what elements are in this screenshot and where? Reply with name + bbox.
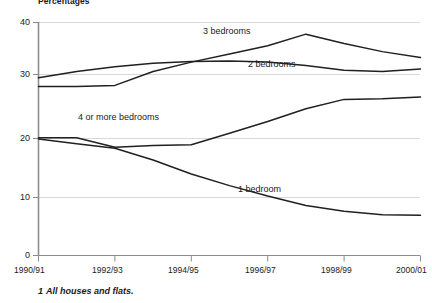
y-tick-label-20: 20: [2, 134, 30, 143]
y-tick-label-10: 10: [2, 193, 30, 202]
series-line-4-or-more-bedrooms: [39, 97, 421, 147]
series-lines: [39, 34, 421, 215]
x-tick-label-1998-99: 1998/99: [321, 266, 352, 275]
chart-plot-area: [0, 0, 432, 303]
series-label-4-or-more-bedrooms: 4 or more bedrooms: [78, 113, 159, 122]
y-tick-label-30: 30: [2, 70, 30, 79]
y-tick-label-40: 40: [2, 18, 30, 27]
x-tick-label-1996-97: 1996/97: [245, 266, 276, 275]
series-line-2-bedrooms: [39, 61, 421, 78]
footnote: 1All houses and flats.: [38, 286, 134, 296]
x-tick-marks: [39, 256, 421, 262]
footnote-number: 1: [38, 286, 43, 296]
x-tick-label-2000-01: 2000/01: [396, 266, 427, 275]
series-label-2-bedrooms: 2 bedrooms: [248, 60, 296, 69]
x-tick-label-1990-91: 1990/91: [14, 266, 45, 275]
gridlines: [38, 23, 420, 198]
footnote-text: All houses and flats.: [46, 286, 134, 296]
series-label-1-bedroom: 1 bedroom: [238, 185, 281, 194]
y-tick-label-0: 0: [2, 251, 30, 260]
x-tick-label-1994-95: 1994/95: [168, 266, 199, 275]
chart-figure: Percentages: [0, 0, 432, 303]
series-label-3-bedrooms: 3 bedrooms: [203, 27, 251, 36]
y-tick-marks: [33, 23, 39, 256]
x-tick-label-1992-93: 1992/93: [92, 266, 123, 275]
series-line-1-bedroom: [39, 139, 421, 215]
